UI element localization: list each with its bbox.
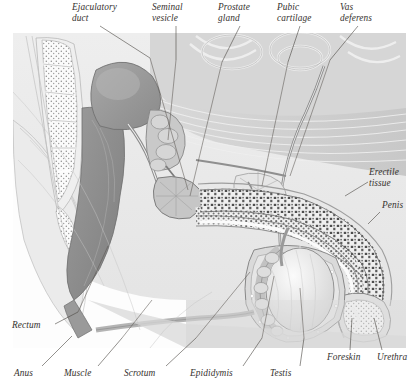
label-ejaculatory-duct: Ejaculatory duct [72, 2, 117, 24]
illustration-body [13, 32, 406, 348]
label-muscle: Muscle [64, 368, 91, 379]
label-prostate-gland: Prostate gland [218, 2, 250, 24]
label-vas-deferens: Vas deferens [340, 2, 372, 24]
label-scrotum: Scrotum [124, 368, 155, 379]
label-penis: Penis [382, 200, 403, 211]
label-pubic-cartilage: Pubic cartilage [277, 2, 311, 24]
label-foreskin: Foreskin [327, 352, 361, 363]
label-rectum: Rectum [12, 320, 40, 331]
label-epididymis: Epididymis [190, 368, 233, 379]
figure-canvas [0, 0, 416, 382]
label-testis: Testis [270, 368, 291, 379]
label-anus: Anus [14, 368, 33, 379]
anatomy-illustration [0, 0, 416, 382]
label-urethra: Urethra [377, 352, 407, 363]
label-erectile-tissue: Erectile tissue [369, 167, 399, 189]
label-seminal-vesicle: Seminal vesicle [152, 2, 183, 24]
